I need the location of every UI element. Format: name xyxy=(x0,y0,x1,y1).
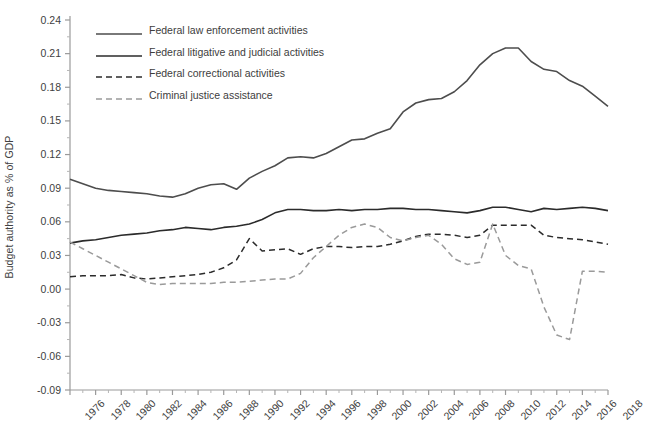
y-tick-label: 0.15 xyxy=(19,114,61,127)
legend-label: Federal correctional activities xyxy=(149,67,285,79)
legend-label: Criminal justice assistance xyxy=(149,89,273,101)
y-tick-label: 0.06 xyxy=(19,215,61,228)
y-tick-label: 0.21 xyxy=(19,47,61,60)
y-tick-label: -0.03 xyxy=(19,316,61,329)
y-tick-label: 0.24 xyxy=(19,14,61,27)
series-line-3 xyxy=(70,224,608,339)
legend-label: Federal litigative and judicial activiti… xyxy=(149,46,324,58)
legend-line-swatch xyxy=(96,68,142,78)
legend-label: Federal law enforcement activities xyxy=(149,24,308,36)
legend-line-swatch xyxy=(96,90,142,100)
legend-item-1[interactable]: Federal litigative and judicial activiti… xyxy=(96,44,324,60)
legend-item-2[interactable]: Federal correctional activities xyxy=(96,65,285,81)
series-line-1 xyxy=(70,207,608,243)
legend-item-3[interactable]: Criminal justice assistance xyxy=(96,87,273,103)
series-line-2 xyxy=(70,225,608,279)
legend-line-swatch xyxy=(96,47,142,57)
y-tick-label: 0.12 xyxy=(19,148,61,161)
y-tick-label: 0.00 xyxy=(19,283,61,296)
legend-item-0[interactable]: Federal law enforcement activities xyxy=(96,22,308,38)
x-tick-label: 2018 xyxy=(620,397,646,423)
y-tick-label: 0.09 xyxy=(19,182,61,195)
y-tick-label: -0.06 xyxy=(19,350,61,363)
y-tick-label: 0.18 xyxy=(19,81,61,94)
y-tick-label: 0.03 xyxy=(19,249,61,262)
y-tick-label: -0.09 xyxy=(19,384,61,397)
legend-line-swatch xyxy=(96,25,142,35)
